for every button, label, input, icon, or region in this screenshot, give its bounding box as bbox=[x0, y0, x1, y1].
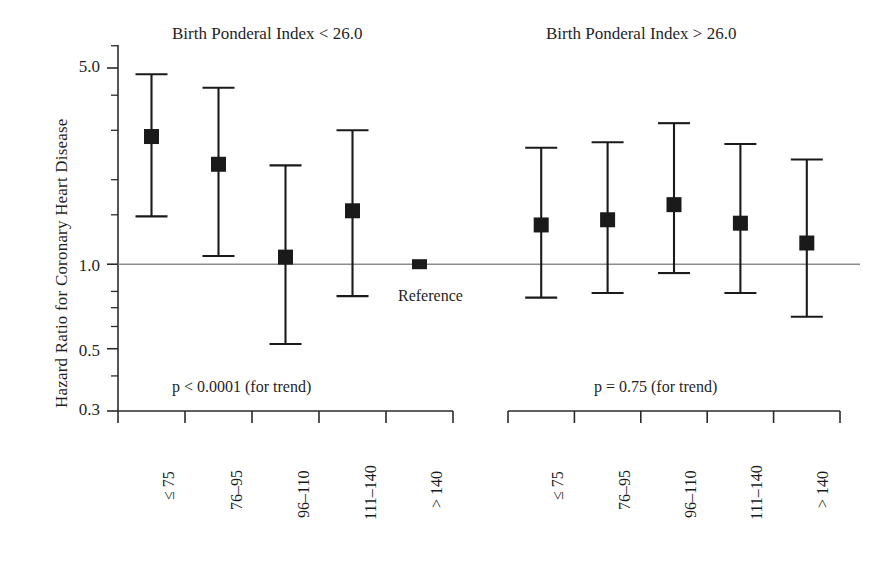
data-point-right-1 bbox=[525, 148, 557, 298]
point-marker bbox=[733, 216, 748, 231]
data-point-left-2 bbox=[203, 88, 235, 256]
point-marker bbox=[211, 157, 226, 172]
point-marker bbox=[278, 250, 293, 265]
point-marker bbox=[667, 197, 682, 212]
data-point-left-3 bbox=[270, 165, 302, 344]
point-marker bbox=[345, 203, 360, 218]
point-marker bbox=[799, 236, 814, 251]
x-axis bbox=[118, 411, 840, 423]
data-point-left-4 bbox=[337, 130, 369, 296]
point-marker bbox=[144, 129, 159, 144]
data-point-right-4 bbox=[724, 144, 756, 293]
data-series bbox=[136, 74, 823, 344]
chart-figure: Hazard Ratio for Coronary Heart Disease … bbox=[0, 0, 883, 567]
plot-canvas bbox=[0, 0, 883, 567]
point-marker bbox=[600, 212, 615, 227]
data-point-right-3 bbox=[658, 123, 690, 273]
data-point-right-2 bbox=[592, 142, 624, 293]
point-marker bbox=[534, 217, 549, 232]
point-marker-reference bbox=[412, 259, 427, 269]
y-axis bbox=[107, 45, 118, 411]
data-point-right-5 bbox=[791, 160, 823, 317]
data-point-left-1 bbox=[136, 74, 168, 216]
data-point-left-5 bbox=[412, 259, 427, 269]
